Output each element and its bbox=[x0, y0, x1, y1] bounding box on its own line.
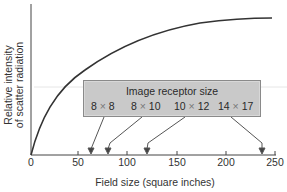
legend-dim-a: 8 bbox=[91, 100, 97, 112]
x-tick-label-250: 250 bbox=[266, 156, 284, 168]
x-axis-label: Field size (square inches) bbox=[30, 176, 280, 188]
y-axis-label: Relative intensity of scatter radiation bbox=[0, 30, 28, 140]
legend-item-10x12: 10 × 12 bbox=[174, 100, 209, 112]
legend-dim-b: 10 bbox=[149, 100, 161, 112]
legend-dim-b: 17 bbox=[242, 100, 254, 112]
legend-title: Image receptor size bbox=[84, 85, 260, 97]
image-receptor-size-legend: Image receptor size 8 × 8 8 × 10 10 × 12… bbox=[83, 80, 261, 117]
legend-dim-a: 14 bbox=[218, 100, 230, 112]
y-axis-label-line2: of scatter radiation bbox=[14, 42, 25, 128]
legend-dim-b: 12 bbox=[198, 100, 210, 112]
x-tick-label-150: 150 bbox=[168, 156, 186, 168]
legend-dim-a: 8 bbox=[131, 100, 137, 112]
legend-item-14x17: 14 × 17 bbox=[218, 100, 253, 112]
receptor-size-arrows bbox=[88, 117, 265, 154]
legend-dim-a: 10 bbox=[174, 100, 186, 112]
x-tick-label-50: 50 bbox=[72, 156, 84, 168]
x-tick-label-100: 100 bbox=[118, 156, 136, 168]
times-sign: × bbox=[189, 100, 195, 112]
x-tick-label-200: 200 bbox=[217, 156, 235, 168]
legend-dim-b: 8 bbox=[109, 100, 115, 112]
times-sign: × bbox=[233, 100, 239, 112]
legend-item-8x10: 8 × 10 bbox=[131, 100, 161, 112]
times-sign: × bbox=[140, 100, 146, 112]
legend-item-8x8: 8 × 8 bbox=[91, 100, 115, 112]
x-tick-label-0: 0 bbox=[28, 156, 34, 168]
times-sign: × bbox=[100, 100, 106, 112]
